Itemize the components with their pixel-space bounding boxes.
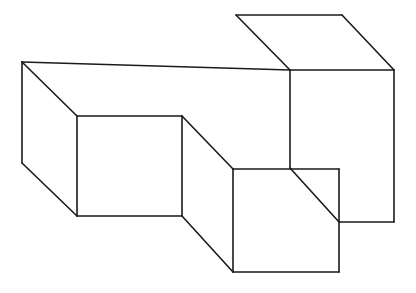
block-figure-svg (0, 0, 416, 293)
face-left-front (77, 116, 182, 216)
drawing-canvas (0, 0, 416, 293)
face-middle-front (233, 169, 339, 272)
face-upper-block-top (236, 15, 394, 70)
